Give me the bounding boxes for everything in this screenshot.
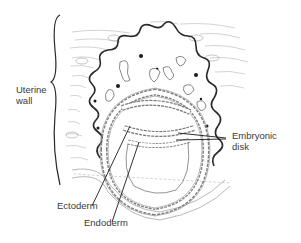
label-uterine-wall-line2: wall [16, 95, 47, 106]
label-embryonic-disk-line1: Embryonic [232, 130, 277, 141]
label-uterine-wall: Uterine wall [16, 84, 47, 106]
uterine-wall-brace [51, 15, 60, 185]
embryonic-disk-leader-lower [176, 139, 226, 140]
outer-cell-layer [100, 88, 210, 216]
label-endoderm: Endoderm [84, 217, 128, 228]
ectoderm-leader [92, 126, 130, 206]
label-ectoderm: Ectoderm [57, 200, 98, 211]
label-uterine-wall-line1: Uterine [16, 84, 47, 95]
diagram-drawing [0, 0, 301, 243]
embryonic-disk [122, 103, 194, 146]
embryo-implantation-diagram: Uterine wall Embryonic disk Ectoderm End… [0, 0, 301, 243]
yolk-sac [126, 142, 189, 193]
label-embryonic-disk-line2: disk [232, 141, 277, 152]
label-embryonic-disk: Embryonic disk [232, 130, 277, 152]
